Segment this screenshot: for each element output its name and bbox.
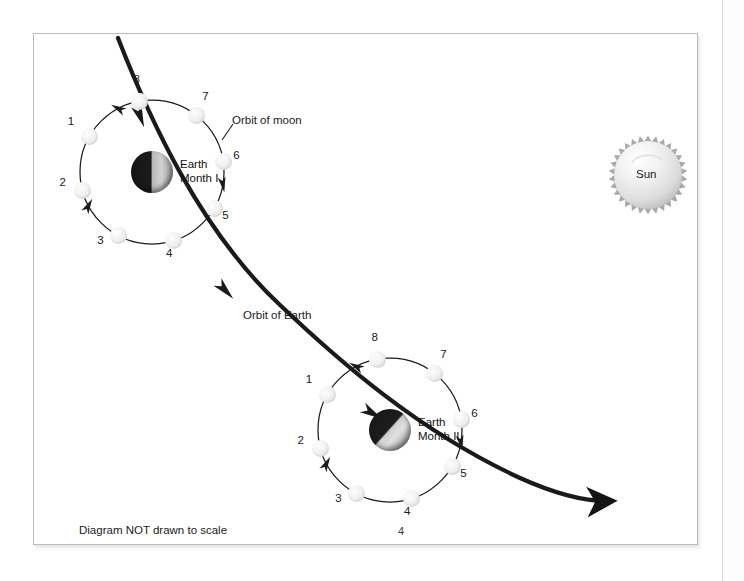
moon-number-label-1-system-1: 1 xyxy=(68,115,74,127)
page-background: 12345678EarthMonth I12345678EarthMonth I… xyxy=(0,0,744,581)
moon-number-label-2-system-2: 2 xyxy=(297,434,303,446)
moon-number-label-5-system-2: 5 xyxy=(460,467,466,479)
page-number: 4 xyxy=(398,525,404,537)
moon-number-label-4-system-1: 4 xyxy=(166,247,172,259)
moon-phase-5-system-2 xyxy=(444,458,461,475)
moon-number-label-5-system-1: 5 xyxy=(222,209,228,221)
moon-number-label-7-system-2: 7 xyxy=(440,348,446,360)
moon-number-label-6-system-2: 6 xyxy=(471,407,477,419)
earth-month-1-label-line1: Earth xyxy=(180,158,218,172)
moon-number-label-8-system-2: 8 xyxy=(371,331,377,343)
earth-month-2 xyxy=(369,409,411,451)
moon-phase-5-system-1 xyxy=(206,200,223,217)
earth-month-1 xyxy=(131,151,173,193)
earth-month-1-label: EarthMonth I xyxy=(180,158,218,185)
moon-number-label-4-system-2: 4 xyxy=(404,505,410,517)
moon-phase-7-system-2 xyxy=(426,365,443,382)
figure-caption: Diagram NOT drawn to scale xyxy=(79,524,227,536)
label-orbit-of-earth: Orbit of Earth xyxy=(243,309,311,322)
moon-number-label-2-system-1: 2 xyxy=(59,176,65,188)
moon-phase-2-system-2 xyxy=(312,440,329,457)
sun-label: Sun xyxy=(636,168,656,181)
page-gutter xyxy=(723,0,744,581)
moon-number-label-3-system-2: 3 xyxy=(335,492,341,504)
moon-phase-3-system-2 xyxy=(348,485,365,502)
earth-month-2-label-line1: Earth xyxy=(418,416,460,430)
moon-number-label-7-system-1: 7 xyxy=(202,90,208,102)
moon-phase-2-system-1 xyxy=(74,182,91,199)
moon-phase-1-system-1 xyxy=(81,128,98,145)
moon-number-label-3-system-1: 3 xyxy=(97,234,103,246)
moon-number-label-6-system-1: 6 xyxy=(233,149,239,161)
moon-phase-8-system-1 xyxy=(131,93,148,110)
moon-phase-7-system-1 xyxy=(188,107,205,124)
label-orbit-of-moon: Orbit of moon xyxy=(232,114,302,127)
moon-number-label-1-system-2: 1 xyxy=(306,373,312,385)
moon-phase-1-system-2 xyxy=(319,386,336,403)
figure-frame xyxy=(33,33,698,545)
earth-month-1-label-line2: Month I xyxy=(180,172,218,186)
earth-month-2-label: EarthMonth II xyxy=(418,416,460,443)
moon-phase-8-system-2 xyxy=(369,351,386,368)
earth-month-2-label-line2: Month II xyxy=(418,430,460,444)
moon-number-label-8-system-1: 8 xyxy=(133,73,139,85)
moon-phase-3-system-1 xyxy=(110,227,127,244)
